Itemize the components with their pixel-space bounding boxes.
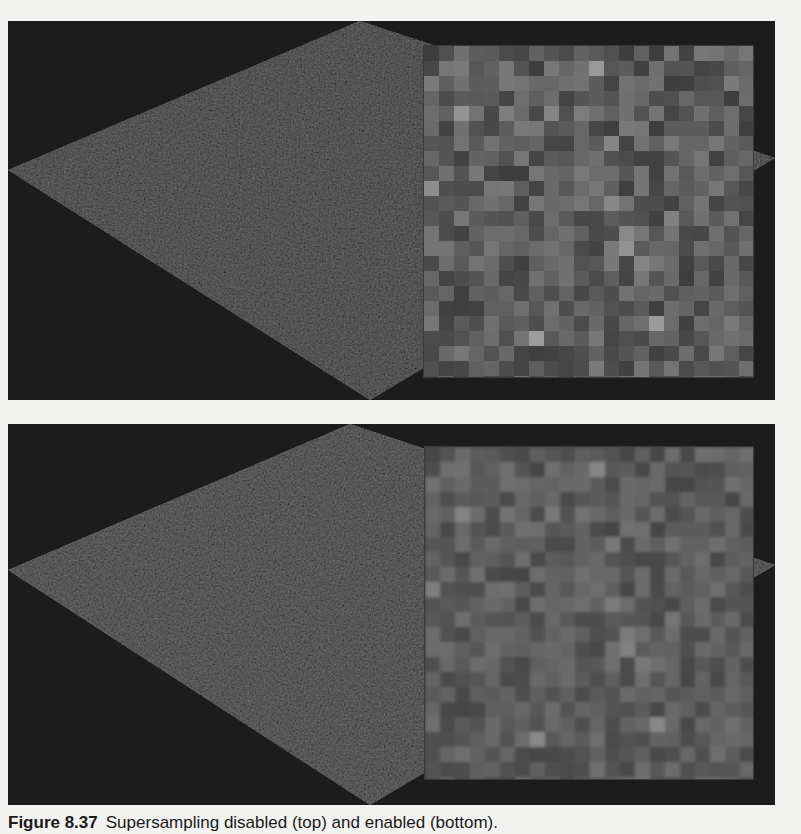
magnified-pixel-inset xyxy=(425,447,755,792)
magnified-pixel-inset xyxy=(424,46,754,391)
figure-caption: Figure 8.37Supersampling disabled (top) … xyxy=(8,812,498,834)
render-panel-supersampling-enabled xyxy=(8,424,775,805)
figure-caption-text: Supersampling disabled (top) and enabled… xyxy=(106,813,498,832)
render-panel-supersampling-disabled xyxy=(8,21,775,400)
figure-caption-label: Figure 8.37 xyxy=(8,813,98,832)
diamond-render-image xyxy=(8,21,775,400)
diamond-render-image xyxy=(8,424,775,805)
